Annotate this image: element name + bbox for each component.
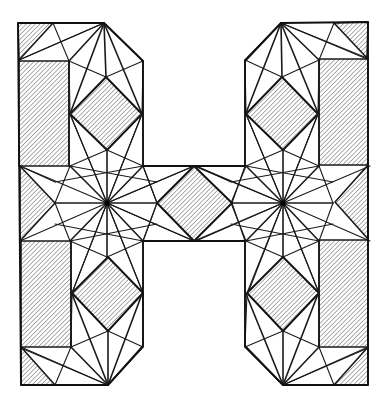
construction-line [104, 23, 106, 77]
hatched-bar-lower-right-bar [319, 240, 368, 347]
construction-line [245, 60, 282, 77]
hatched-triangle-left-middle [20, 166, 55, 241]
construction-line [281, 23, 282, 77]
construction-line [281, 23, 319, 60]
construction-line [69, 23, 104, 61]
construction-line [71, 347, 108, 385]
construction-line [108, 331, 143, 347]
star-center-dot [104, 200, 109, 205]
construction-line [55, 203, 70, 241]
construction-line [283, 331, 319, 347]
hatched-bar-upper-left-bar [19, 61, 69, 166]
construction-line [55, 347, 71, 385]
construction-line [245, 331, 283, 347]
hatched-bar-lower-left-bar [21, 241, 71, 347]
letter-h-figure [0, 0, 389, 404]
construction-line [70, 241, 107, 257]
hatched-bar-upper-right-bar [319, 59, 368, 165]
construction-line [71, 331, 108, 347]
construction-line [69, 61, 106, 77]
construction-line [283, 347, 319, 385]
construction-line [319, 203, 333, 241]
construction-line [282, 60, 319, 77]
construction-line [55, 166, 70, 203]
star-center-dot [280, 200, 285, 205]
construction-line [319, 166, 333, 203]
construction-line [106, 61, 143, 77]
